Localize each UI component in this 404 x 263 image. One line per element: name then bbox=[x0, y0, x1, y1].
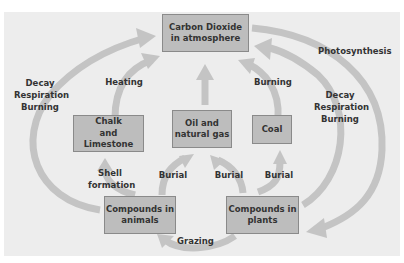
label-photosynthesis: Photosynthesis bbox=[318, 46, 388, 58]
arrowhead-co2-left bbox=[136, 28, 156, 48]
coal-box: Coal bbox=[252, 115, 292, 144]
label-decay-left: Decay Respiration Burning bbox=[14, 78, 66, 114]
arrowhead-coal bbox=[273, 150, 287, 164]
arrow-chalk-to-co2 bbox=[115, 60, 152, 118]
label-grazing: Grazing bbox=[177, 236, 213, 248]
label-shell-formation: Shell formation bbox=[88, 168, 132, 192]
label-burning-coal: Burning bbox=[254, 77, 290, 89]
label-heating: Heating bbox=[104, 77, 144, 89]
label-decay-right: Decay Respiration Burning bbox=[314, 90, 366, 126]
oil-box: Oil and natural gas bbox=[172, 110, 232, 148]
chalk-box: Chalk and Limestone bbox=[73, 115, 144, 152]
arrowhead-co2-oil bbox=[196, 64, 214, 80]
label-burial-plants-oil: Burial bbox=[214, 170, 244, 182]
co2-box: Carbon Dioxide in atmosphere bbox=[162, 14, 249, 52]
arrowhead-plants-photo bbox=[306, 218, 327, 238]
arrowhead-co2-decay bbox=[254, 38, 272, 60]
label-burial-plants-coal: Burial bbox=[264, 170, 294, 182]
animals-box: Compounds in animals bbox=[104, 196, 176, 234]
arrowhead-co2-coal bbox=[238, 58, 255, 74]
arrow-coal-to-co2 bbox=[248, 64, 278, 118]
label-burial-animals: Burial bbox=[158, 170, 188, 182]
plants-box: Compounds in plants bbox=[226, 196, 299, 234]
